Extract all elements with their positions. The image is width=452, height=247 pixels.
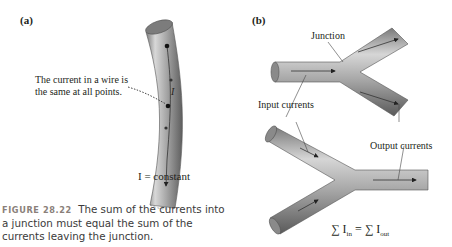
output-currents-label: Output currents [370, 140, 433, 152]
equation-kirchhoff: ∑ Iin = ∑ Iout [331, 222, 389, 238]
junction-label: Junction [311, 30, 345, 42]
figure-number: FIGURE 28.22 [2, 205, 72, 215]
eq-rhs-sub: out [380, 230, 389, 238]
input-currents-label: Input currents [258, 99, 314, 111]
annotation-line-2: the same at all points. [35, 86, 122, 98]
equation-constant: I = constant [138, 170, 190, 182]
eq-lhs: ∑ I [331, 222, 347, 236]
point-dot [165, 44, 170, 49]
point-dot [164, 126, 167, 129]
point-dot [166, 104, 171, 109]
current-symbol: I [171, 86, 174, 98]
annotation-line-1: The current in a wire is [35, 74, 128, 86]
junction-leader [328, 42, 343, 62]
panel-b-label: (b) [252, 14, 265, 26]
point-dot [169, 78, 172, 81]
panel-a-label: (a) [20, 14, 33, 26]
figure-caption: FIGURE 28.22 The sum of the currents int… [2, 203, 232, 243]
eq-rhs: = ∑ I [352, 222, 380, 236]
